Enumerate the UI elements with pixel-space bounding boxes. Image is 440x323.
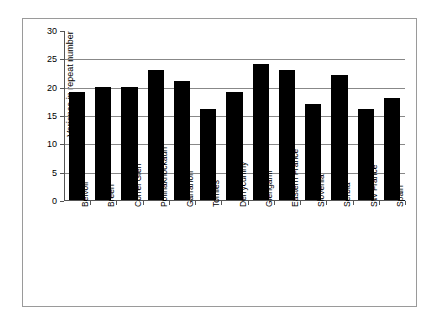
y-axis-tick-label: 15 <box>47 112 57 121</box>
x-axis-label: Breen <box>107 184 116 207</box>
x-axis-label: Slovenia <box>317 174 326 207</box>
x-axis-label: Belvoir <box>81 181 90 207</box>
x-axis-tick-mark <box>353 201 354 205</box>
x-axis-tick-mark <box>326 201 327 205</box>
x-axis-tick-mark <box>379 201 380 205</box>
plot-area: 051015202530 <box>64 31 405 201</box>
x-axis-label: Glengariff <box>265 170 274 207</box>
x-axis-label: Correl Glen <box>134 164 143 207</box>
x-axis-label: Eastern France <box>291 149 300 207</box>
x-axis-tick-mark <box>221 201 222 205</box>
y-axis-tick-label: 0 <box>52 197 57 206</box>
x-axis-tick-mark <box>116 201 117 205</box>
x-axis-label: SW France <box>370 164 379 207</box>
x-axis-label: Serbia <box>343 182 352 207</box>
x-axis-label: Derrycunihy <box>239 162 248 207</box>
gridline <box>64 59 405 60</box>
y-axis-tick-label: 5 <box>52 168 57 177</box>
gridline <box>64 88 405 89</box>
chart-frame: Variance in repeat number 051015202530 B… <box>22 18 417 307</box>
x-axis-tick-mark <box>274 201 275 205</box>
x-axis-label: Spain <box>396 185 405 207</box>
y-axis-tick-mark <box>60 201 64 202</box>
x-axis-label: Tomies <box>212 180 221 207</box>
y-axis-line <box>64 31 65 201</box>
bar <box>95 87 111 200</box>
x-axis-tick-mark <box>169 201 170 205</box>
x-axis-tick-mark <box>248 201 249 205</box>
y-axis-tick-label: 20 <box>47 83 57 92</box>
y-axis-tick-label: 30 <box>47 27 57 36</box>
y-axis-tick-label: 10 <box>47 140 57 149</box>
x-axis-label: Garranon <box>186 171 195 207</box>
x-axis-tick-mark <box>90 201 91 205</box>
x-axis-tick-mark <box>143 201 144 205</box>
y-axis-tick-label: 25 <box>47 55 57 64</box>
x-axis-tick-mark <box>405 201 406 205</box>
x-axis-label: Pollnaknockaun <box>160 147 169 207</box>
x-axis-tick-mark <box>195 201 196 205</box>
x-axis-tick-mark <box>300 201 301 205</box>
